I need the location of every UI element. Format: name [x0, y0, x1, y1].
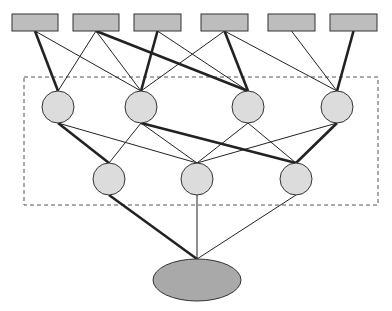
input-layer: [12, 14, 377, 31]
edge-C2-L1-thin: [109, 123, 141, 163]
edge-R4-C2-thin: [141, 31, 225, 91]
hidden-node-C2: [125, 91, 157, 123]
edges-group: [35, 31, 354, 259]
edge-R1-C2-thin: [35, 31, 141, 91]
hidden-node-C1: [42, 91, 74, 123]
edge-C3-L2-thin: [197, 123, 248, 163]
hidden-layer-2: [93, 163, 312, 195]
edge-C1-L2-thin: [58, 123, 197, 163]
edge-L3-OUT-thin: [197, 195, 296, 259]
hidden-layer-1: [42, 91, 353, 123]
hidden-node-L2: [181, 163, 213, 195]
edge-R2-C1-thin: [58, 31, 96, 91]
input-node-R2: [73, 14, 119, 31]
input-node-R4: [201, 14, 248, 31]
hidden-node-C4: [321, 91, 353, 123]
input-node-R1: [12, 14, 58, 31]
output-node: [153, 259, 241, 301]
input-node-R5: [268, 14, 315, 31]
edge-R3-C2-thick: [141, 31, 158, 91]
edge-R1-C1-thick: [35, 31, 58, 91]
hidden-node-L3: [280, 163, 312, 195]
hidden-node-L1: [93, 163, 125, 195]
edge-C1-L1-thick: [58, 123, 109, 163]
edge-R4-C4-thin: [225, 31, 338, 91]
hidden-node-C3: [232, 91, 264, 123]
network-diagram: [0, 0, 392, 311]
input-node-R6: [330, 14, 377, 31]
edge-R6-C4-thick: [337, 31, 354, 91]
input-node-R3: [134, 14, 181, 31]
edge-R5-C4-thin: [292, 31, 338, 91]
output-layer: [153, 259, 241, 301]
